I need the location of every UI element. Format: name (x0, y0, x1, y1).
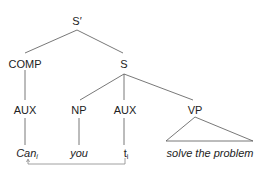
node-s: S (120, 58, 127, 70)
node-np: NP (71, 104, 86, 116)
leaf-vp-phrase: solve the problem (167, 147, 254, 159)
node-aux-comp: AUX (14, 104, 37, 116)
tree-edges (0, 0, 271, 171)
leaf-can: Cani (16, 147, 38, 163)
node-aux-s: AUX (114, 104, 137, 116)
node-s-bar: S′ (72, 15, 81, 27)
leaf-can-index: i (36, 153, 38, 160)
node-vp: VP (188, 104, 203, 116)
leaf-can-word: Can (16, 147, 36, 159)
leaf-trace: ti (124, 147, 129, 163)
node-comp: COMP (9, 58, 42, 70)
leaf-you: you (70, 147, 88, 159)
leaf-trace-index: i (127, 153, 129, 160)
